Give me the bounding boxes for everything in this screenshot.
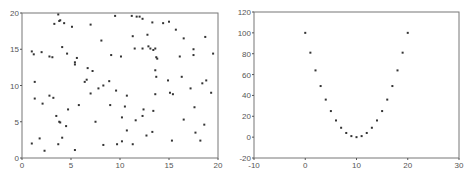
data-point bbox=[42, 103, 44, 105]
data-point bbox=[100, 40, 102, 42]
y-tick-label: 0 bbox=[247, 133, 252, 142]
data-point bbox=[350, 135, 352, 137]
data-point bbox=[121, 116, 123, 118]
data-point bbox=[33, 53, 35, 55]
plot-frame bbox=[254, 12, 459, 158]
data-point bbox=[154, 93, 156, 95]
data-point bbox=[205, 79, 207, 81]
data-point bbox=[366, 132, 368, 134]
data-point bbox=[167, 79, 169, 81]
data-point bbox=[201, 82, 203, 84]
data-point bbox=[59, 19, 61, 21]
data-point bbox=[74, 61, 76, 63]
data-point bbox=[154, 48, 156, 50]
data-point bbox=[120, 56, 122, 58]
y-tick-label: 5 bbox=[15, 118, 20, 127]
data-point bbox=[151, 21, 153, 23]
data-point bbox=[193, 106, 195, 108]
y-tick-label: 100 bbox=[238, 29, 252, 38]
data-point bbox=[190, 87, 192, 89]
data-point bbox=[132, 143, 134, 145]
y-tick-label: 10 bbox=[10, 82, 19, 91]
x-tick-label: 10 bbox=[116, 161, 125, 170]
y-tick-label: 120 bbox=[238, 8, 252, 17]
plot-frame bbox=[22, 13, 218, 158]
data-point bbox=[402, 52, 404, 54]
data-point bbox=[61, 137, 63, 139]
data-point bbox=[147, 45, 149, 47]
data-point bbox=[181, 76, 183, 78]
data-point bbox=[110, 54, 112, 56]
data-point bbox=[95, 121, 97, 123]
y-tick-label: 15 bbox=[10, 45, 19, 54]
data-point bbox=[381, 110, 383, 112]
data-point bbox=[108, 80, 110, 82]
data-point bbox=[356, 136, 358, 138]
x-tick-label: 20 bbox=[214, 161, 223, 170]
data-point bbox=[34, 98, 36, 100]
data-point bbox=[55, 115, 57, 117]
y-tick-label: 60 bbox=[242, 71, 251, 80]
data-point bbox=[407, 32, 409, 34]
data-point bbox=[335, 119, 337, 121]
data-point bbox=[67, 108, 69, 110]
data-point bbox=[134, 48, 136, 50]
data-point bbox=[149, 48, 151, 50]
data-point bbox=[115, 90, 117, 92]
data-point bbox=[156, 58, 158, 60]
data-point bbox=[52, 97, 54, 99]
data-point bbox=[154, 69, 156, 71]
data-point bbox=[61, 46, 63, 48]
data-point bbox=[143, 108, 145, 110]
data-point bbox=[175, 29, 177, 31]
data-point bbox=[51, 56, 53, 58]
data-point bbox=[386, 99, 388, 101]
data-point bbox=[146, 34, 148, 36]
data-point bbox=[371, 127, 373, 129]
data-point bbox=[116, 143, 118, 145]
y-tick-label: 20 bbox=[10, 9, 19, 18]
data-point bbox=[171, 140, 173, 142]
data-point bbox=[126, 95, 128, 97]
data-point bbox=[34, 81, 36, 83]
data-point bbox=[31, 50, 33, 52]
data-point bbox=[309, 52, 311, 54]
data-point bbox=[136, 16, 138, 18]
x-tick-label: 0 bbox=[303, 161, 308, 170]
data-point bbox=[41, 51, 43, 53]
y-tick-label: 20 bbox=[242, 112, 251, 121]
data-point bbox=[48, 95, 50, 97]
data-point bbox=[92, 70, 94, 72]
data-point bbox=[139, 16, 141, 18]
data-point bbox=[210, 92, 212, 94]
data-point bbox=[74, 149, 76, 151]
data-point bbox=[78, 104, 80, 106]
data-point bbox=[76, 57, 78, 59]
data-point bbox=[391, 85, 393, 87]
data-point bbox=[90, 92, 92, 94]
data-point bbox=[142, 115, 144, 117]
data-point bbox=[169, 92, 171, 94]
data-point bbox=[345, 132, 347, 134]
data-point bbox=[48, 56, 50, 58]
data-point bbox=[84, 81, 86, 83]
data-point bbox=[193, 48, 195, 50]
data-point bbox=[152, 49, 154, 51]
data-point bbox=[90, 24, 92, 26]
data-point bbox=[320, 85, 322, 87]
data-point bbox=[86, 79, 88, 81]
data-point bbox=[109, 104, 111, 106]
data-point bbox=[59, 121, 61, 123]
data-point bbox=[126, 129, 128, 131]
data-point bbox=[325, 99, 327, 101]
data-point bbox=[361, 135, 363, 137]
data-point bbox=[194, 132, 196, 134]
data-point bbox=[152, 110, 154, 112]
data-point bbox=[39, 137, 41, 139]
data-point bbox=[183, 119, 185, 121]
y-tick-label: 0 bbox=[15, 154, 20, 163]
charts-canvas: 0510152005101520 -100102030-200204060801… bbox=[0, 0, 476, 180]
data-point bbox=[204, 36, 206, 38]
data-point bbox=[199, 140, 201, 142]
data-point bbox=[131, 15, 133, 17]
